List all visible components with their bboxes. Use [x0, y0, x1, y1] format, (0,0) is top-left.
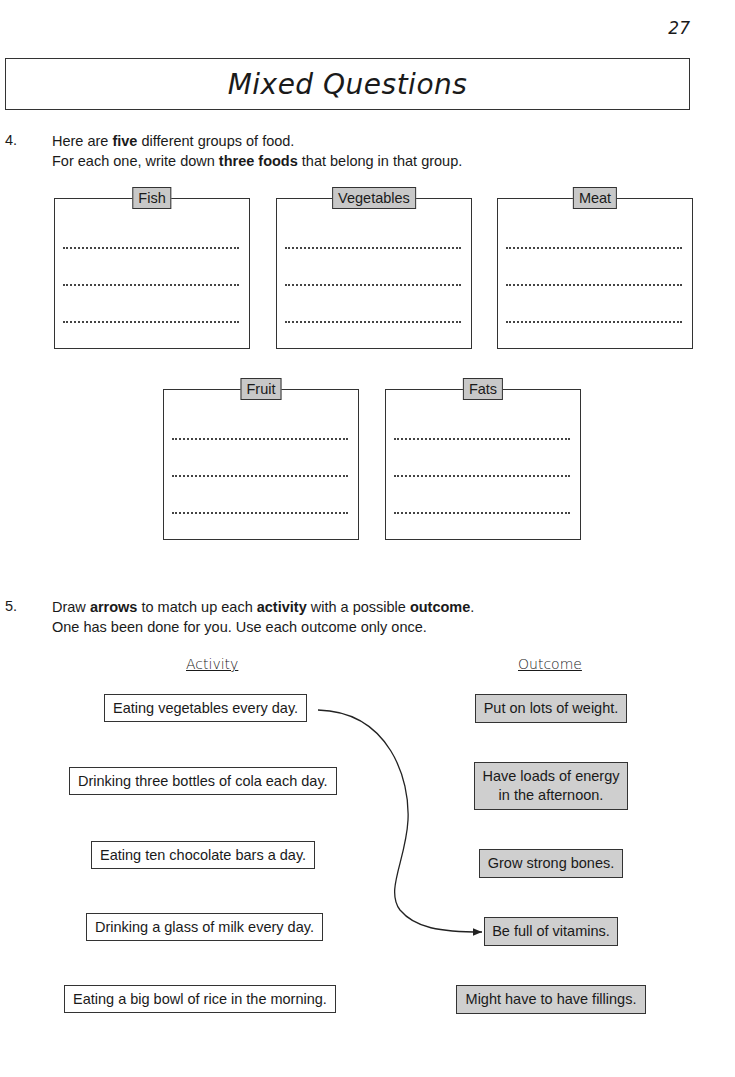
text: to match up each	[137, 599, 256, 615]
activity-item[interactable]: Drinking a glass of milk every day.	[86, 913, 323, 941]
answer-line[interactable]	[63, 321, 239, 323]
text: .	[470, 599, 474, 615]
outcome-item[interactable]: Put on lots of weight.	[475, 694, 627, 723]
answer-line[interactable]	[394, 475, 570, 477]
text: Draw	[52, 599, 90, 615]
outcome-item[interactable]: Have loads of energy in the afternoon.	[474, 762, 628, 810]
answer-line[interactable]	[172, 475, 348, 477]
emphasis: activity	[257, 599, 307, 615]
outcome-text: Put on lots of weight.	[484, 700, 619, 716]
outcome-text: Grow strong bones.	[488, 855, 615, 871]
food-group-fats: Fats	[385, 389, 581, 540]
text: different groups of food.	[137, 133, 294, 149]
text: For each one, write down	[52, 153, 219, 169]
activity-heading: Activity	[186, 656, 238, 672]
answer-line[interactable]	[285, 321, 461, 323]
answer-line[interactable]	[63, 247, 239, 249]
food-group-label: Fats	[463, 378, 503, 400]
question-4-line-2: For each one, write down three foods tha…	[52, 151, 462, 171]
question-5-number: 5.	[5, 598, 17, 614]
answer-line[interactable]	[394, 438, 570, 440]
food-group-label: Meat	[573, 187, 617, 209]
text: with a possible	[307, 599, 410, 615]
food-group-label: Vegetables	[332, 187, 416, 209]
outcome-item[interactable]: Grow strong bones.	[479, 849, 623, 878]
outcome-heading: Outcome	[518, 656, 582, 672]
answer-line[interactable]	[506, 321, 682, 323]
question-5-text: Draw arrows to match up each activity wi…	[52, 597, 474, 637]
activity-item[interactable]: Eating a big bowl of rice in the morning…	[64, 985, 336, 1013]
emphasis: outcome	[410, 599, 470, 615]
answer-line[interactable]	[394, 512, 570, 514]
answer-line[interactable]	[63, 284, 239, 286]
question-4-number: 4.	[5, 132, 17, 148]
emphasis: five	[112, 133, 137, 149]
food-group-meat: Meat	[497, 198, 693, 349]
question-4-text: Here are five different groups of food. …	[52, 131, 462, 171]
food-group-label: Fish	[132, 187, 171, 209]
outcome-item[interactable]: Might have to have fillings.	[456, 985, 646, 1014]
food-group-vegetables: Vegetables	[276, 198, 472, 349]
answer-line[interactable]	[172, 438, 348, 440]
outcome-text: Might have to have fillings.	[466, 991, 637, 1007]
food-group-label: Fruit	[241, 378, 282, 400]
outcome-text: Have loads of energy	[480, 767, 622, 786]
answer-line[interactable]	[506, 284, 682, 286]
page-title: Mixed Questions	[228, 68, 468, 101]
activity-item[interactable]: Eating ten chocolate bars a day.	[91, 841, 315, 869]
title-banner: Mixed Questions	[5, 58, 690, 110]
emphasis: arrows	[90, 599, 138, 615]
text: Here are	[52, 133, 112, 149]
question-4-line-1: Here are five different groups of food.	[52, 131, 462, 151]
activity-item[interactable]: Drinking three bottles of cola each day.	[69, 767, 337, 795]
answer-line[interactable]	[285, 247, 461, 249]
answer-line[interactable]	[172, 512, 348, 514]
activity-item[interactable]: Eating vegetables every day.	[104, 694, 307, 722]
outcome-item[interactable]: Be full of vitamins.	[484, 917, 618, 946]
text: that belong in that group.	[298, 153, 462, 169]
question-5-line-2: One has been done for you. Use each outc…	[52, 617, 474, 637]
food-group-fruit: Fruit	[163, 389, 359, 540]
food-group-fish: Fish	[54, 198, 250, 349]
emphasis: three foods	[219, 153, 298, 169]
answer-line[interactable]	[506, 247, 682, 249]
outcome-text: in the afternoon.	[480, 786, 622, 805]
page-number: 27	[668, 18, 690, 38]
outcome-text: Be full of vitamins.	[492, 923, 610, 939]
answer-line[interactable]	[285, 284, 461, 286]
question-5-line-1: Draw arrows to match up each activity wi…	[52, 597, 474, 617]
